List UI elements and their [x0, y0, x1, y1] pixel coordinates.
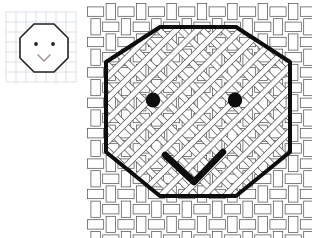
left-eye: [146, 92, 160, 107]
left-eye: [34, 42, 38, 46]
thumbnail-panel: [0, 0, 86, 238]
right-eye: [228, 92, 242, 107]
right-eye: [51, 42, 55, 46]
diagram-canvas: [0, 0, 312, 238]
octagon-outline: [20, 24, 68, 72]
octagon-face-sketch: [0, 0, 86, 238]
octagon-face-weave: [86, 0, 312, 238]
weave-panel: [86, 0, 312, 238]
